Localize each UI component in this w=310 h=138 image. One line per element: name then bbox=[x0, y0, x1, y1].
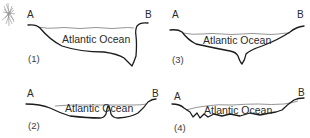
panel-number: (4) bbox=[174, 122, 186, 133]
ocean-label: Atlantic Ocean bbox=[65, 102, 133, 114]
panel-number: (2) bbox=[28, 120, 40, 131]
panel-1: A B Atlantic Ocean (1) bbox=[27, 9, 152, 66]
sea-surface-line bbox=[38, 27, 134, 29]
point-a-label: A bbox=[27, 9, 34, 20]
panel-4: A B Atlantic Ocean (4) bbox=[172, 87, 305, 133]
panel-3: A B Atlantic Ocean (3) bbox=[170, 9, 304, 65]
ocean-label: Atlantic Ocean bbox=[62, 33, 130, 45]
panel-number: (1) bbox=[28, 53, 40, 64]
point-b-label: B bbox=[152, 88, 159, 99]
ocean-label: Atlantic Ocean bbox=[203, 34, 271, 46]
point-a-label: A bbox=[172, 9, 179, 20]
ocean-label: Atlantic Ocean bbox=[204, 104, 272, 116]
scribble-icon bbox=[2, 3, 15, 26]
point-b-label: B bbox=[297, 9, 304, 20]
panel-2: A B Atlantic Ocean (2) bbox=[26, 88, 159, 131]
panel-number: (3) bbox=[172, 54, 184, 65]
point-b-label: B bbox=[298, 87, 305, 98]
point-a-label: A bbox=[174, 91, 181, 102]
ocean-profile-diagram: A B Atlantic Ocean (1) A B Atlantic Ocea… bbox=[0, 0, 310, 138]
point-a-label: A bbox=[27, 88, 34, 99]
point-b-label: B bbox=[145, 9, 152, 20]
